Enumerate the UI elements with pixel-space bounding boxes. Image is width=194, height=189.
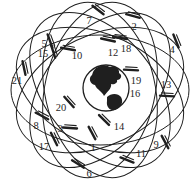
satellite-constellation-figure: 123456789101112131415161718192021: [0, 0, 194, 189]
satellite-17: 17: [39, 131, 60, 151]
satellite-8: 8: [33, 110, 49, 130]
satellite-3-marker: [63, 125, 77, 129]
satellite-1: 1: [89, 126, 98, 153]
satellite-21-marker: [23, 61, 29, 75]
satellite-11-label: 11: [136, 148, 146, 159]
satellite-4-label: 4: [169, 44, 175, 55]
satellite-1-marker: [89, 126, 98, 140]
satellite-16-label: 16: [130, 88, 141, 99]
satellite-16: 16: [130, 88, 141, 99]
satellite-10: 10: [61, 45, 82, 60]
satellite-1-label: 1: [90, 142, 95, 153]
satellite-7-label: 7: [86, 15, 91, 26]
satellite-13-label: 13: [161, 79, 172, 90]
satellite-20-label: 20: [56, 102, 67, 113]
satellite-12-label: 12: [108, 47, 119, 58]
satellite-6-label: 6: [86, 168, 91, 179]
constellation-svg: 123456789101112131415161718192021: [0, 0, 194, 189]
satellite-21: 21: [12, 61, 28, 86]
satellite-15-label: 15: [38, 48, 49, 59]
satellite-19-marker: [124, 67, 138, 71]
satellite-2-label: 2: [131, 21, 136, 32]
satellite-13-marker: [160, 93, 174, 97]
satellite-17-label: 17: [39, 141, 50, 152]
satellite-14-label: 14: [114, 121, 125, 132]
satellite-2: 2: [126, 11, 140, 31]
satellite-9: 9: [153, 135, 170, 150]
satellite-14: 14: [99, 113, 125, 131]
satellite-8-label: 8: [33, 120, 38, 131]
satellite-5: 5: [41, 33, 55, 48]
south-america-continent: [107, 94, 122, 110]
earth-globe: [83, 65, 129, 111]
satellite-19-label: 19: [131, 75, 142, 86]
satellite-14-marker: [99, 113, 111, 125]
satellite-18-label: 18: [121, 43, 132, 54]
satellite-20: 20: [56, 95, 76, 113]
satellite-3-label: 3: [57, 123, 62, 134]
satellite-21-label: 21: [12, 75, 23, 86]
satellite-3: 3: [57, 123, 77, 134]
satellite-12: 12: [101, 36, 118, 58]
satellite-9-label: 9: [153, 139, 158, 150]
satellite-10-label: 10: [72, 50, 83, 61]
